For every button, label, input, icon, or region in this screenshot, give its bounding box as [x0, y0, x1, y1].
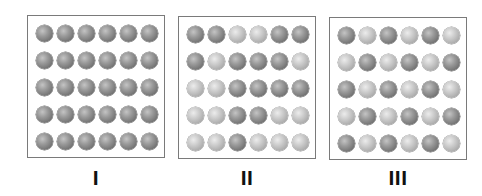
dark-sphere-icon — [36, 25, 53, 42]
dark-sphere-icon — [443, 108, 460, 125]
dark-sphere-icon — [359, 54, 376, 71]
sphere-cell — [420, 130, 441, 157]
sphere-cell — [55, 128, 76, 155]
light-sphere-icon — [380, 108, 397, 125]
sphere-cell — [139, 101, 160, 128]
dark-sphere-icon — [57, 79, 74, 96]
light-sphere-icon — [250, 134, 267, 151]
sphere-cell — [55, 74, 76, 101]
dark-sphere-icon — [141, 133, 158, 150]
panel-i — [27, 15, 165, 158]
sphere-cell — [139, 128, 160, 155]
sphere-cell — [290, 21, 311, 48]
sphere-cell — [34, 74, 55, 101]
label-ii: II — [217, 166, 277, 190]
sphere-cell — [441, 49, 462, 76]
sphere-cell — [206, 75, 227, 102]
dark-sphere-icon — [36, 133, 53, 150]
light-sphere-icon — [250, 26, 267, 43]
sphere-cell — [118, 101, 139, 128]
sphere-cell — [76, 74, 97, 101]
light-sphere-icon — [359, 135, 376, 152]
dark-sphere-icon — [187, 26, 204, 43]
sphere-cell — [420, 76, 441, 103]
light-sphere-icon — [208, 53, 225, 70]
dark-sphere-icon — [120, 25, 137, 42]
light-sphere-icon — [187, 134, 204, 151]
sphere-cell — [185, 48, 206, 75]
sphere-cell — [185, 102, 206, 129]
sphere-cell — [441, 130, 462, 157]
light-sphere-icon — [292, 134, 309, 151]
sphere-cell — [399, 49, 420, 76]
sphere-cell — [441, 103, 462, 130]
sphere-cell — [227, 48, 248, 75]
sphere-cell — [357, 76, 378, 103]
dark-sphere-icon — [78, 79, 95, 96]
sphere-cell — [34, 128, 55, 155]
dark-sphere-icon — [141, 106, 158, 123]
label-iii: III — [368, 166, 428, 190]
sphere-cell — [34, 47, 55, 74]
sphere-cell — [336, 76, 357, 103]
dark-sphere-icon — [338, 135, 355, 152]
light-sphere-icon — [422, 108, 439, 125]
dark-sphere-icon — [36, 106, 53, 123]
sphere-cell — [420, 22, 441, 49]
light-sphere-icon — [380, 54, 397, 71]
light-sphere-icon — [401, 27, 418, 44]
sphere-cell — [97, 47, 118, 74]
dark-sphere-icon — [401, 54, 418, 71]
sphere-cell — [420, 49, 441, 76]
light-sphere-icon — [271, 134, 288, 151]
sphere-cell — [269, 129, 290, 156]
sphere-cell — [97, 74, 118, 101]
sphere-cell — [97, 128, 118, 155]
dark-sphere-icon — [120, 106, 137, 123]
dark-sphere-icon — [141, 79, 158, 96]
dark-sphere-icon — [141, 25, 158, 42]
dark-sphere-icon — [78, 52, 95, 69]
sphere-grid-iii — [336, 22, 462, 157]
sphere-cell — [206, 102, 227, 129]
sphere-cell — [378, 130, 399, 157]
sphere-cell — [269, 75, 290, 102]
dark-sphere-icon — [229, 80, 246, 97]
sphere-cell — [357, 130, 378, 157]
sphere-cell — [290, 129, 311, 156]
light-sphere-icon — [401, 135, 418, 152]
dark-sphere-icon — [229, 107, 246, 124]
dark-sphere-icon — [422, 81, 439, 98]
sphere-cell — [269, 21, 290, 48]
sphere-cell — [34, 20, 55, 47]
dark-sphere-icon — [36, 52, 53, 69]
dark-sphere-icon — [250, 107, 267, 124]
sphere-cell — [118, 74, 139, 101]
sphere-cell — [206, 21, 227, 48]
dark-sphere-icon — [57, 52, 74, 69]
sphere-cell — [399, 76, 420, 103]
light-sphere-icon — [187, 107, 204, 124]
light-sphere-icon — [208, 80, 225, 97]
light-sphere-icon — [208, 107, 225, 124]
dark-sphere-icon — [78, 133, 95, 150]
sphere-cell — [378, 76, 399, 103]
dark-sphere-icon — [250, 53, 267, 70]
light-sphere-icon — [359, 27, 376, 44]
sphere-cell — [227, 102, 248, 129]
dark-sphere-icon — [229, 134, 246, 151]
light-sphere-icon — [187, 80, 204, 97]
sphere-cell — [248, 48, 269, 75]
dark-sphere-icon — [271, 80, 288, 97]
sphere-cell — [185, 129, 206, 156]
sphere-cell — [76, 101, 97, 128]
sphere-cell — [399, 103, 420, 130]
light-sphere-icon — [443, 27, 460, 44]
sphere-cell — [139, 74, 160, 101]
dark-sphere-icon — [120, 133, 137, 150]
dark-sphere-icon — [99, 79, 116, 96]
dark-sphere-icon — [120, 79, 137, 96]
light-sphere-icon — [208, 134, 225, 151]
sphere-cell — [336, 103, 357, 130]
light-sphere-icon — [338, 108, 355, 125]
